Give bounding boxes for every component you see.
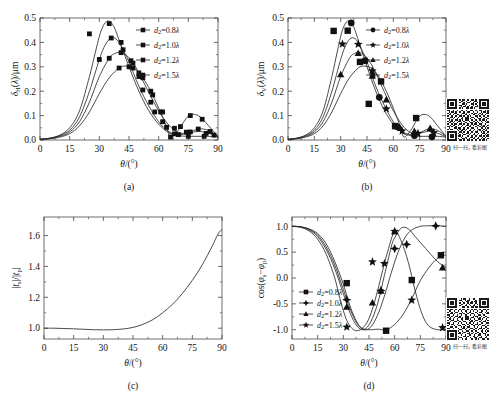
svg-text:-0.5: -0.5 — [273, 299, 288, 309]
svg-text:1.2: 1.2 — [28, 293, 40, 303]
svg-text:d2=1.2λ: d2=1.2λ — [384, 56, 410, 66]
panel-b-plot-area: 0.00.10.20.30.40.5 0153045607590 d2=0.8λ… — [256, 13, 451, 193]
svg-text:0: 0 — [42, 343, 47, 353]
svg-text:0.5: 0.5 — [276, 247, 288, 257]
panel-caption: (d) — [363, 381, 374, 392]
svg-text:1.0: 1.0 — [28, 323, 40, 333]
svg-text:45: 45 — [128, 343, 138, 353]
svg-text:15: 15 — [65, 144, 75, 154]
svg-text:0.0: 0.0 — [272, 135, 284, 145]
svg-text:d2=1.5λ: d2=1.5λ — [317, 321, 343, 331]
svg-text:0.3: 0.3 — [272, 62, 284, 72]
svg-text:d2=1.2λ: d2=1.2λ — [154, 56, 180, 66]
plot-frame — [44, 217, 222, 339]
panel-c-plot-area: 1.01.21.41.6 0153045607590 θ/(°) |ts|/|t… — [11, 217, 227, 392]
svg-text:0.3: 0.3 — [24, 62, 36, 72]
svg-text:75: 75 — [184, 144, 194, 154]
qr-block-panel-d[interactable]: 扫一扫，看彩图 — [446, 297, 494, 348]
panel-c-svg: 1.01.21.41.6 0153045607590 θ/(°) |ts|/|t… — [0, 203, 248, 407]
svg-text:d2=1.5λ: d2=1.5λ — [384, 71, 410, 81]
svg-text:d2=1.0λ: d2=1.0λ — [384, 41, 410, 51]
svg-text:d2=1.0λ: d2=1.0λ — [154, 41, 180, 51]
panel-caption: (b) — [361, 182, 372, 193]
svg-text:0.1: 0.1 — [272, 111, 284, 121]
qr-code-icon[interactable] — [446, 297, 490, 341]
y-axis-title: |ts|/|tp| — [11, 267, 22, 288]
y-axis-title: cos(φs−φp) — [256, 258, 267, 299]
svg-text:75: 75 — [188, 343, 198, 353]
panel-caption: (a) — [124, 182, 135, 193]
svg-text:0.0: 0.0 — [276, 273, 288, 283]
svg-text:d2=1.0λ: d2=1.0λ — [317, 299, 343, 309]
svg-text:30: 30 — [336, 144, 346, 154]
svg-text:0: 0 — [286, 144, 291, 154]
svg-text:0.5: 0.5 — [272, 13, 284, 23]
svg-text:60: 60 — [154, 144, 164, 154]
svg-text:d2=1.5λ: d2=1.5λ — [154, 71, 180, 81]
svg-text:d2=1.2λ: d2=1.2λ — [317, 310, 343, 320]
panel-b: 0.00.10.20.30.40.5 0153045607590 d2=0.8λ… — [248, 0, 496, 203]
svg-text:d2=0.8λ: d2=0.8λ — [154, 26, 180, 36]
plot-frame — [292, 217, 446, 339]
panel-a: 0.00.10.20.30.40.5 0153045607590 d2=0.8λ… — [0, 0, 248, 203]
figure-root: 0.00.10.20.30.40.5 0153045607590 d2=0.8λ… — [0, 0, 496, 407]
svg-text:30: 30 — [95, 144, 105, 154]
svg-text:0.2: 0.2 — [24, 87, 36, 97]
plot-frame — [288, 18, 446, 140]
x-axis-title: θ/(°) — [360, 358, 377, 369]
qr-code-icon[interactable] — [446, 98, 490, 142]
svg-text:15: 15 — [69, 343, 79, 353]
qr-block-panel-b[interactable]: 扫一扫，看彩图 — [446, 98, 494, 149]
svg-text:1.6: 1.6 — [28, 231, 40, 241]
svg-text:0.1: 0.1 — [24, 111, 36, 121]
panel-a-plot-area: 0.00.10.20.30.40.5 0153045607590 d2=0.8λ… — [10, 13, 223, 193]
svg-text:60: 60 — [158, 343, 168, 353]
x-axis-title: θ/(°) — [358, 159, 375, 170]
svg-text:d2=0.8λ: d2=0.8λ — [317, 288, 343, 298]
svg-text:0.4: 0.4 — [24, 38, 36, 48]
svg-text:60: 60 — [389, 144, 399, 154]
svg-text:0.5: 0.5 — [24, 13, 36, 23]
svg-text:15: 15 — [313, 343, 323, 353]
panel-caption: (c) — [128, 381, 139, 392]
svg-text:d2=0.8λ: d2=0.8λ — [384, 26, 410, 36]
y-axis-title: δH(λ)/μm — [10, 61, 21, 96]
svg-text:1.0: 1.0 — [276, 222, 288, 232]
svg-text:45: 45 — [364, 343, 374, 353]
svg-text:-1.0: -1.0 — [273, 325, 288, 335]
svg-text:45: 45 — [362, 144, 372, 154]
svg-text:75: 75 — [415, 144, 425, 154]
y-axis-title: δV(λ)/μm — [256, 61, 267, 96]
svg-text:90: 90 — [213, 144, 223, 154]
qr-caption: 扫一扫，看彩图 — [442, 143, 496, 150]
x-axis-title: θ/(°) — [124, 358, 141, 369]
svg-text:0.0: 0.0 — [24, 135, 36, 145]
qr-caption: 扫一扫，看彩图 — [442, 342, 496, 349]
svg-text:0: 0 — [38, 144, 43, 154]
x-axis-title: θ/(°) — [120, 159, 137, 170]
svg-text:0.4: 0.4 — [272, 38, 284, 48]
svg-text:60: 60 — [390, 343, 400, 353]
panel-d: -1.0-0.50.00.51.0 0153045607590 d2=0.8λd… — [248, 203, 496, 406]
svg-text:45: 45 — [124, 144, 134, 154]
svg-text:30: 30 — [339, 343, 349, 353]
panel-c: 1.01.21.41.6 0153045607590 θ/(°) |ts|/|t… — [0, 203, 248, 406]
svg-text:30: 30 — [99, 343, 109, 353]
svg-text:90: 90 — [217, 343, 227, 353]
panel-a-svg: 0.00.10.20.30.40.5 0153045607590 d2=0.8λ… — [0, 0, 248, 203]
svg-text:0.2: 0.2 — [272, 87, 284, 97]
plot-frame — [40, 18, 218, 140]
svg-text:0: 0 — [290, 343, 295, 353]
svg-text:1.4: 1.4 — [28, 262, 40, 272]
svg-text:75: 75 — [416, 343, 426, 353]
panel-d-plot-area: -1.0-0.50.00.51.0 0153045607590 d2=0.8λd… — [256, 217, 451, 392]
svg-text:15: 15 — [310, 144, 320, 154]
